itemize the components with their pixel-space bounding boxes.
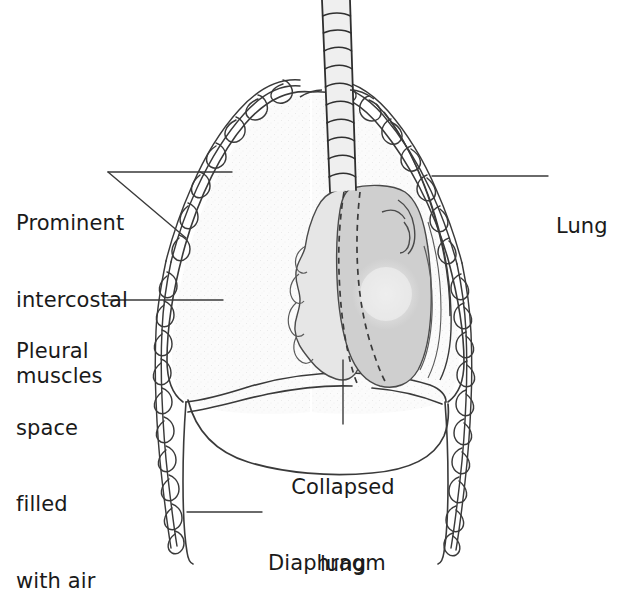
label-line: space — [16, 416, 95, 442]
label-line: Pleural — [16, 339, 95, 365]
label-line: filled — [16, 492, 95, 518]
label-line: Diaphragm — [268, 551, 386, 577]
label-line: with air — [16, 569, 95, 594]
label-line: Lung — [556, 214, 608, 240]
label-line: Prominent — [16, 211, 128, 237]
pneumothorax-figure: Prominent intercostal muscles Pleural sp… — [0, 0, 620, 594]
label-diaphragm: Diaphragm — [268, 500, 386, 594]
label-lung: Lung — [556, 163, 608, 291]
label-pleural-space-filled-with-air: Pleural space filled with air — [16, 288, 95, 594]
label-line: Collapsed — [288, 475, 398, 501]
